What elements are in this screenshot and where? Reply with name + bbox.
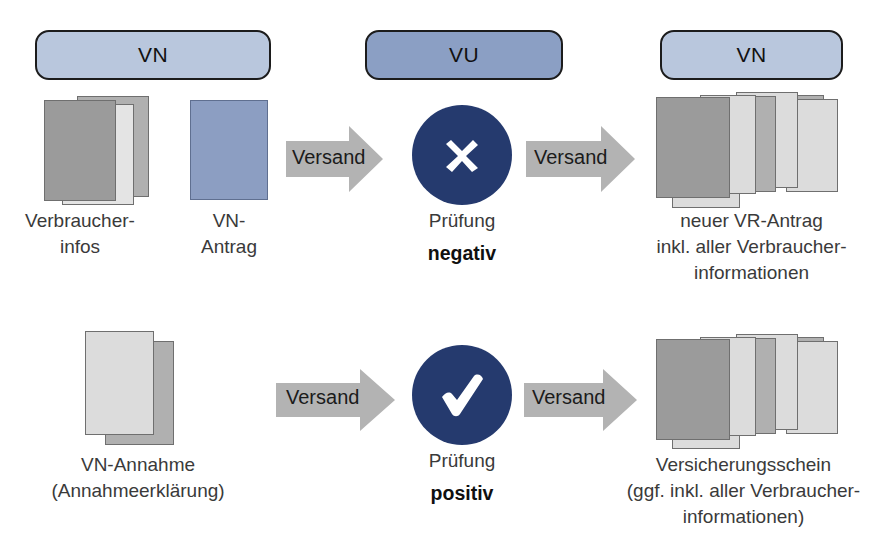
document-fan-icon (656, 97, 730, 198)
check-icon (436, 369, 488, 421)
arrow-label-versand-2: Versand (534, 146, 607, 169)
arrow-label-versand-3: Versand (286, 386, 359, 409)
lane-header-vn-left: VN (35, 30, 271, 80)
document-fan-icon (656, 339, 730, 440)
caption-neuer-vr-antrag: neuer VR-Antrag inkl. aller Verbraucher-… (624, 208, 879, 286)
caption-vn-antrag: VN- Antrag (164, 208, 294, 260)
cross-icon (438, 131, 486, 179)
result-pruefung-negativ: negativ (392, 240, 532, 266)
document-icon-vn-antrag (190, 100, 268, 200)
diagram-canvas: VN VU VN Verbraucher- infos VN- Antrag V… (0, 0, 879, 552)
lane-header-vu: VU (365, 30, 563, 80)
lane-label: VN (138, 43, 168, 67)
lane-label: VN (736, 43, 766, 67)
status-circle-pruefung-positiv (412, 345, 512, 445)
caption-pruefung-negativ: Prüfung (392, 208, 532, 234)
status-circle-pruefung-negativ (412, 105, 512, 205)
arrow-label-versand-4: Versand (532, 386, 605, 409)
arrow-label-versand-1: Versand (292, 146, 365, 169)
lane-label: VU (449, 43, 479, 67)
document-stack-icon (44, 100, 116, 201)
result-pruefung-positiv: positiv (392, 480, 532, 506)
lane-header-vn-right: VN (660, 30, 843, 80)
caption-pruefung-positiv: Prüfung (392, 448, 532, 474)
caption-verbraucherinfos: Verbraucher- infos (10, 208, 150, 260)
document-stack-icon (85, 331, 154, 435)
caption-versicherungsschein: Versicherungsschein (ggf. inkl. aller Ve… (608, 452, 879, 530)
caption-vn-annahme: VN-Annahme (Annahmeerklärung) (8, 452, 268, 504)
